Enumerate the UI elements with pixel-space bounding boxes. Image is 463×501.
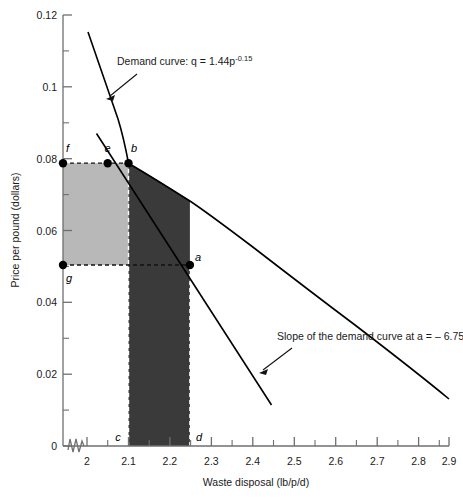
x-tick-label-2.5: 2.5	[287, 455, 302, 467]
chart-figure: 0 0.02 0.04 0.06 0.08 0.1 0.12 2 2.1 2.2…	[0, 0, 463, 501]
x-tick-label-2.6: 2.6	[328, 455, 343, 467]
x-tick-label-2.4: 2.4	[245, 455, 260, 467]
shaded-region-dark-bacd	[129, 163, 190, 446]
point-label-g: g	[66, 272, 73, 284]
x-tick-label-2: 2	[84, 455, 90, 467]
y-tick-label-0.06: 0.06	[37, 225, 58, 237]
point-label-e: e	[105, 142, 111, 154]
point-marker-f	[59, 159, 67, 167]
svg-text:Demand curve: q = 1.44p-0.15: Demand curve: q = 1.44p-0.15	[117, 54, 252, 67]
x-tick-label-2.8: 2.8	[411, 455, 426, 467]
shaded-region-light-fbcg	[63, 163, 129, 265]
y-tick-label-0.12: 0.12	[37, 9, 58, 21]
y-tick-label-0: 0	[51, 440, 57, 452]
demand-annotation-exponent: -0.15	[235, 54, 252, 63]
waste-disposal-demand-chart: 0 0.02 0.04 0.06 0.08 0.1 0.12 2 2.1 2.2…	[0, 0, 463, 501]
point-label-a: a	[195, 251, 201, 263]
x-tick-label-2.9: 2.9	[442, 455, 457, 467]
x-tick-label-2.7: 2.7	[370, 455, 385, 467]
demand-annotation-text: Demand curve: q = 1.44p	[117, 55, 235, 67]
y-tick-label-0.08: 0.08	[37, 153, 58, 165]
point-marker-e	[104, 159, 112, 167]
point-marker-a	[186, 261, 194, 269]
x-tick-label-2.1: 2.1	[121, 455, 136, 467]
point-label-d: d	[196, 431, 203, 443]
point-marker-b	[124, 159, 132, 167]
x-axis-label: Waste disposal (lb/p/d)	[203, 476, 309, 488]
x-tick-label-2.2: 2.2	[163, 455, 178, 467]
point-label-c: c	[115, 431, 121, 443]
y-tick-label-0.1: 0.1	[42, 81, 57, 93]
y-tick-label-0.04: 0.04	[37, 296, 58, 308]
y-axis-label: Price per pound (dollars)	[9, 173, 21, 288]
y-tick-label-0.02: 0.02	[37, 368, 58, 380]
point-label-b: b	[131, 142, 137, 154]
point-marker-g	[59, 261, 67, 269]
x-tick-label-2.3: 2.3	[204, 455, 219, 467]
slope-annotation-text: Slope of the demand curve at a = – 6.75	[277, 330, 463, 342]
